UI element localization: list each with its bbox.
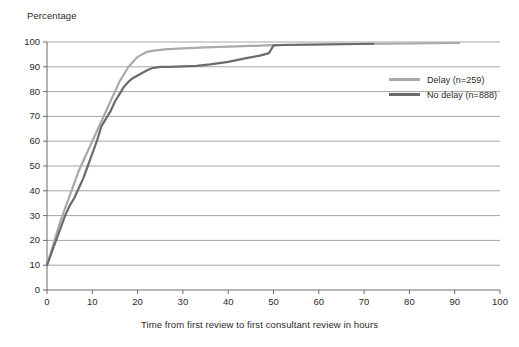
y-tick-label: 60 bbox=[14, 136, 40, 146]
legend-swatch-delay bbox=[389, 78, 420, 81]
x-tick-label: 50 bbox=[259, 297, 289, 307]
chart-figure: Percentage 0102030405060708090100 010203… bbox=[0, 0, 519, 347]
legend-label-delay: Delay (n=259) bbox=[427, 75, 484, 85]
x-axis-label: Time from first review to first consulta… bbox=[0, 319, 519, 330]
y-tick-label: 30 bbox=[14, 211, 40, 221]
x-tick-label: 100 bbox=[485, 297, 515, 307]
x-tick-label: 20 bbox=[123, 297, 153, 307]
x-tick-label: 30 bbox=[168, 297, 198, 307]
x-tick-label: 60 bbox=[304, 297, 334, 307]
legend-label-no-delay: No delay (n=888) bbox=[427, 90, 497, 100]
legend-swatch-no-delay bbox=[389, 93, 420, 96]
y-tick-label: 50 bbox=[14, 161, 40, 171]
y-tick-label: 10 bbox=[14, 260, 40, 270]
y-tick-label: 70 bbox=[14, 111, 40, 121]
y-tick-label: 40 bbox=[14, 186, 40, 196]
y-tick-label: 20 bbox=[14, 235, 40, 245]
legend-item-no-delay: No delay (n=888) bbox=[389, 87, 497, 102]
x-tick-label: 80 bbox=[394, 297, 424, 307]
x-tick-label: 0 bbox=[32, 297, 62, 307]
y-tick-label: 100 bbox=[14, 37, 40, 47]
y-tick-label: 90 bbox=[14, 62, 40, 72]
x-tick-label: 10 bbox=[77, 297, 107, 307]
legend-item-delay: Delay (n=259) bbox=[389, 72, 497, 87]
chart-legend: Delay (n=259) No delay (n=888) bbox=[389, 72, 497, 102]
x-tick-label: 90 bbox=[440, 297, 470, 307]
y-tick-label: 0 bbox=[14, 285, 40, 295]
chart-plot-area bbox=[0, 0, 519, 347]
x-tick-label: 70 bbox=[349, 297, 379, 307]
y-tick-label: 80 bbox=[14, 87, 40, 97]
x-tick-label: 40 bbox=[213, 297, 243, 307]
